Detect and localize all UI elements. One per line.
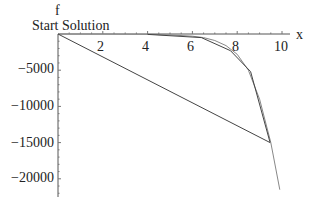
y-tick-label: −20000	[11, 171, 54, 185]
y-tick-label: −10000	[11, 99, 54, 113]
x-tick-label: 2	[97, 40, 104, 54]
x-tick-label: 8	[232, 40, 239, 54]
y-tick-label: −15000	[11, 136, 54, 150]
x-tick-label: 4	[142, 40, 149, 54]
x-tick-label: 10	[274, 40, 288, 54]
x-axis-label: x	[296, 28, 303, 42]
y-tick-label: −5000	[18, 62, 54, 76]
y-axis-label: f	[55, 4, 60, 18]
start-solution-label: Start Solution	[32, 19, 109, 33]
function-curve	[58, 34, 280, 190]
x-tick-label: 6	[187, 40, 194, 54]
